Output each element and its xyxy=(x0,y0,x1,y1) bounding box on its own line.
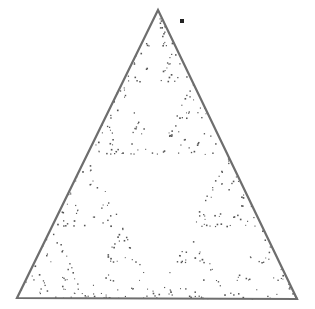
point xyxy=(273,277,274,278)
point xyxy=(117,149,119,151)
point xyxy=(93,285,94,286)
point xyxy=(247,221,248,222)
point xyxy=(185,262,186,263)
point xyxy=(241,196,243,198)
point xyxy=(185,259,186,260)
point xyxy=(75,205,76,206)
point xyxy=(124,90,125,91)
point xyxy=(177,115,178,116)
point xyxy=(164,287,165,288)
start-point-marker xyxy=(180,19,184,23)
point xyxy=(239,275,241,277)
point xyxy=(161,27,163,29)
point xyxy=(63,220,64,221)
point xyxy=(43,280,44,281)
point xyxy=(124,87,125,88)
point xyxy=(259,261,260,262)
point xyxy=(218,281,219,282)
point xyxy=(178,153,179,154)
point xyxy=(248,279,249,280)
point xyxy=(128,80,129,81)
point xyxy=(228,163,229,164)
point xyxy=(276,294,277,295)
point xyxy=(199,260,200,261)
point xyxy=(171,135,172,136)
point xyxy=(243,195,244,196)
point xyxy=(101,207,102,208)
point xyxy=(146,296,147,297)
point xyxy=(197,112,198,113)
point xyxy=(65,289,66,290)
point xyxy=(197,144,199,146)
point xyxy=(237,280,238,281)
point xyxy=(199,253,200,254)
point xyxy=(101,293,102,294)
diagram-svg xyxy=(0,0,315,309)
point xyxy=(249,279,251,281)
point xyxy=(136,126,137,127)
point xyxy=(141,133,142,134)
point xyxy=(172,294,173,295)
point xyxy=(180,144,181,145)
point xyxy=(169,135,171,137)
point xyxy=(166,67,167,68)
point xyxy=(214,215,216,217)
point xyxy=(206,225,208,227)
point xyxy=(205,219,206,220)
point xyxy=(110,143,112,145)
point xyxy=(110,153,111,154)
point xyxy=(178,131,179,132)
point xyxy=(105,191,106,192)
point xyxy=(111,149,113,151)
point xyxy=(116,151,117,152)
point xyxy=(171,130,173,132)
point xyxy=(194,151,196,153)
point xyxy=(179,117,181,119)
point xyxy=(110,117,111,118)
point xyxy=(106,295,107,296)
point xyxy=(221,171,222,172)
point xyxy=(180,288,181,289)
point xyxy=(108,254,110,256)
point xyxy=(39,292,40,293)
point xyxy=(46,255,47,256)
point xyxy=(238,181,239,182)
point xyxy=(124,97,125,98)
point xyxy=(153,293,155,295)
point xyxy=(133,153,134,154)
point xyxy=(135,77,137,79)
point xyxy=(238,277,239,278)
point xyxy=(212,187,213,188)
point xyxy=(108,202,109,203)
point xyxy=(88,296,89,297)
point xyxy=(168,81,170,83)
point xyxy=(170,63,171,64)
point xyxy=(160,27,161,28)
point xyxy=(175,54,177,56)
point xyxy=(186,252,187,253)
point xyxy=(224,294,226,296)
point xyxy=(236,176,237,177)
point xyxy=(134,112,135,113)
point xyxy=(231,183,232,184)
point xyxy=(70,193,71,194)
point xyxy=(169,57,170,58)
point xyxy=(165,70,166,71)
point xyxy=(215,143,217,145)
point xyxy=(139,81,141,83)
point xyxy=(206,196,207,197)
point xyxy=(112,132,113,133)
point xyxy=(133,288,134,289)
point xyxy=(175,125,176,126)
point xyxy=(32,276,33,277)
point xyxy=(269,252,270,253)
point xyxy=(140,53,142,55)
point xyxy=(44,282,45,283)
point xyxy=(289,288,290,289)
point xyxy=(242,205,244,207)
point xyxy=(125,296,126,297)
point xyxy=(246,278,248,280)
point xyxy=(219,176,220,177)
point xyxy=(167,62,168,63)
point xyxy=(186,118,188,120)
